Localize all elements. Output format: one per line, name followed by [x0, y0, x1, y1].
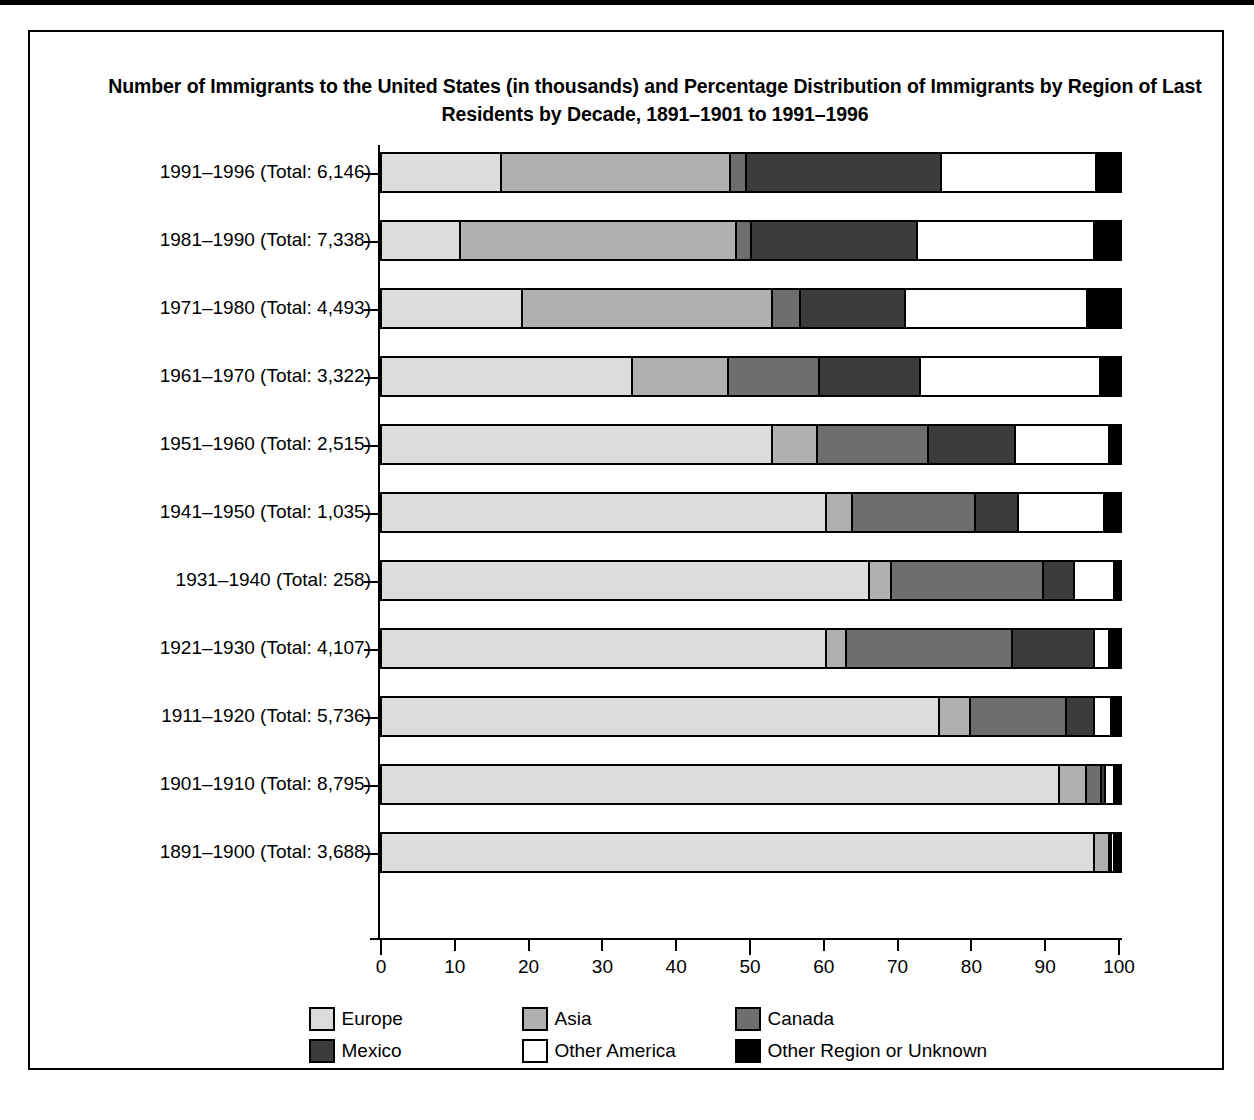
legend-label: Other Region or Unknown: [768, 1040, 988, 1062]
bar-segment-asia: [500, 154, 729, 191]
bar-segment-canada: [969, 698, 1064, 735]
bar-segment-mexico: [927, 426, 1015, 463]
chart-bar-row: 1941–1950 (Total: 1,035): [30, 485, 1226, 553]
stacked-bar: [380, 832, 1122, 873]
legend-label: Canada: [768, 1008, 835, 1030]
x-axis-tick: [675, 938, 677, 951]
bar-segment-europe: [382, 766, 1058, 803]
legend-item: Asia: [522, 1007, 735, 1031]
bar-segment-mexico: [745, 154, 940, 191]
legend-row-top: EuropeAsiaCanada: [30, 1007, 1226, 1031]
y-axis-tick: [364, 173, 379, 175]
x-axis-tick: [380, 938, 382, 955]
bar-segment-other-region-or-unknown: [1093, 222, 1120, 259]
x-axis-tick-label: 40: [666, 956, 687, 978]
bar-segment-canada: [851, 494, 974, 531]
bar-segment-canada: [1085, 766, 1100, 803]
bar-segment-asia: [825, 630, 845, 667]
bar-segment-europe: [382, 290, 521, 327]
bar-segment-mexico: [974, 494, 1018, 531]
chart-bar-row: 1901–1910 (Total: 8,795): [30, 757, 1226, 825]
bar-segment-canada: [735, 222, 749, 259]
bar-segment-mexico: [818, 358, 919, 395]
bar-category-label: 1891–1900 (Total: 3,688): [160, 841, 371, 863]
bar-segment-other-region-or-unknown: [1113, 834, 1121, 871]
legend-item: Other Region or Unknown: [735, 1039, 948, 1063]
x-axis-tick-label: 10: [444, 956, 465, 978]
y-axis-tick: [364, 785, 379, 787]
bar-category-label: 1961–1970 (Total: 3,322): [160, 365, 371, 387]
stacked-bar: [380, 560, 1122, 601]
bar-segment-europe: [382, 222, 459, 259]
chart-bar-row: 1891–1900 (Total: 3,688): [30, 825, 1226, 893]
x-axis-tick: [897, 938, 899, 951]
stacked-bar: [380, 628, 1122, 669]
legend-swatch: [309, 1007, 335, 1031]
x-axis-tick-label: 20: [518, 956, 539, 978]
bar-segment-asia: [459, 222, 735, 259]
bar-segment-other-america: [1093, 630, 1108, 667]
x-axis-tick: [454, 938, 456, 951]
bar-category-label: 1941–1950 (Total: 1,035): [160, 501, 371, 523]
legend-swatch: [735, 1039, 761, 1063]
x-axis-tick: [1118, 938, 1120, 955]
bar-segment-other-region-or-unknown: [1113, 766, 1120, 803]
bar-category-label: 1971–1980 (Total: 4,493): [160, 297, 371, 319]
stacked-bar: [380, 424, 1122, 465]
bar-segment-other-region-or-unknown: [1113, 562, 1120, 599]
bar-segment-other-america: [1014, 426, 1108, 463]
bar-segment-asia: [825, 494, 852, 531]
bar-segment-other-region-or-unknown: [1086, 290, 1120, 327]
chart-bar-row: 1931–1940 (Total: 258): [30, 553, 1226, 621]
x-axis-tick: [528, 938, 530, 951]
bar-segment-europe: [382, 698, 938, 735]
bar-segment-asia: [868, 562, 891, 599]
bar-segment-other-region-or-unknown: [1103, 494, 1120, 531]
bar-segment-other-region-or-unknown: [1108, 630, 1120, 667]
bar-segment-mexico: [1042, 562, 1073, 599]
bar-segment-other-region-or-unknown: [1110, 698, 1120, 735]
x-axis-tick-label: 100: [1103, 956, 1135, 978]
bar-segment-europe: [382, 562, 868, 599]
bar-category-label: 1921–1930 (Total: 4,107): [160, 637, 371, 659]
x-axis-tick-label: 80: [961, 956, 982, 978]
bar-segment-europe: [382, 494, 825, 531]
stacked-bar: [380, 492, 1122, 533]
bar-segment-canada: [845, 630, 1011, 667]
x-axis-tick: [601, 938, 603, 951]
bar-segment-mexico: [799, 290, 904, 327]
bar-segment-mexico: [1065, 698, 1093, 735]
stacked-bar: [380, 356, 1122, 397]
bar-segment-europe: [382, 630, 825, 667]
x-axis-tick-label: 60: [813, 956, 834, 978]
x-axis-tick-label: 30: [592, 956, 613, 978]
stacked-bar: [380, 152, 1122, 193]
x-axis-tick: [1044, 938, 1046, 951]
bar-segment-canada: [729, 154, 745, 191]
legend-item: Europe: [309, 1007, 522, 1031]
y-axis-tick: [364, 445, 379, 447]
legend-swatch: [522, 1007, 548, 1031]
x-axis-tick: [749, 938, 751, 955]
bar-segment-canada: [816, 426, 927, 463]
chart-bar-row: 1951–1960 (Total: 2,515): [30, 417, 1226, 485]
bar-segment-europe: [382, 358, 631, 395]
bar-segment-other-america: [1093, 698, 1110, 735]
legend-label: Mexico: [342, 1040, 402, 1062]
bar-segment-asia: [631, 358, 726, 395]
chart-bar-row: 1981–1990 (Total: 7,338): [30, 213, 1226, 281]
chart-bar-row: 1971–1980 (Total: 4,493): [30, 281, 1226, 349]
y-axis-tick: [364, 581, 379, 583]
legend-item: Other America: [522, 1039, 735, 1063]
bar-category-label: 1951–1960 (Total: 2,515): [160, 433, 371, 455]
x-axis-tick: [823, 938, 825, 951]
bar-segment-asia: [1058, 766, 1085, 803]
x-axis-tick-label: 0: [376, 956, 387, 978]
x-axis-tick-label: 70: [887, 956, 908, 978]
legend-label: Asia: [555, 1008, 592, 1030]
bar-segment-other-america: [919, 358, 1099, 395]
legend-swatch: [522, 1039, 548, 1063]
chart-bar-row: 1921–1930 (Total: 4,107): [30, 621, 1226, 689]
bar-segment-other-america: [916, 222, 1093, 259]
x-axis-tick-label: 50: [739, 956, 760, 978]
